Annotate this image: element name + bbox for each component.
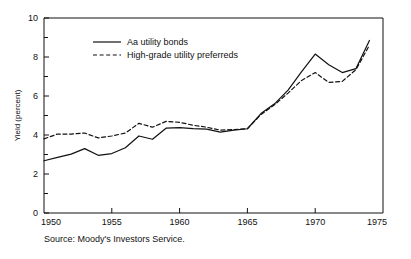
plot-frame [44, 18, 383, 213]
y-tick-label: 10 [28, 13, 38, 23]
legend-label-high-grade-preferreds: High-grade utility preferreds [127, 50, 239, 60]
x-tick-label: 1950 [41, 217, 61, 227]
x-tick-label: 1965 [237, 217, 257, 227]
y-tick-label: 4 [33, 130, 38, 140]
y-tick-label: 8 [33, 52, 38, 62]
y-axis-title: Yield (percent) [13, 89, 22, 141]
x-tick-label: 1955 [102, 217, 122, 227]
x-tick-label: 1975 [367, 217, 387, 227]
x-tick-label: 1970 [305, 217, 325, 227]
y-axis-title-text: Yield (percent) [13, 89, 22, 141]
yield-line-chart: 0246810195019551960196519701975 Aa utili… [0, 0, 411, 259]
y-tick-label: 0 [33, 208, 38, 218]
y-tick-label: 2 [33, 169, 38, 179]
legend-label-aa-utility-bonds: Aa utility bonds [127, 37, 189, 47]
chart-figure: 0246810195019551960196519701975 Aa utili… [0, 0, 411, 259]
chart-axes: 0246810195019551960196519701975 [28, 13, 387, 227]
y-tick-label: 6 [33, 91, 38, 101]
chart-legend: Aa utility bondsHigh-grade utility prefe… [93, 37, 239, 60]
source-note: Source: Moody's Investors Service. [44, 234, 185, 244]
x-tick-label: 1960 [170, 217, 190, 227]
